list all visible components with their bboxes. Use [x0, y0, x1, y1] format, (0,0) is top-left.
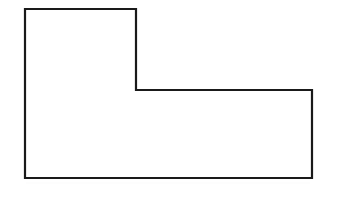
l-shape-polygon	[25, 9, 312, 178]
diagram-canvas	[0, 0, 340, 199]
l-shape-figure	[0, 0, 340, 199]
